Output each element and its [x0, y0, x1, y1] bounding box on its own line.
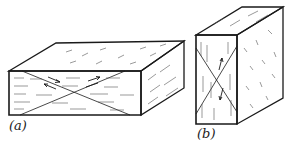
panel-label-b: (b): [197, 126, 215, 141]
block-b: [196, 7, 283, 124]
shear-arrows-a: [44, 77, 100, 90]
figure-diagram: [0, 0, 291, 148]
block-a-top-face: [9, 41, 184, 71]
block-a: [9, 41, 184, 115]
block-b-top-face: [196, 7, 283, 35]
panel-label-a: (a): [9, 118, 27, 133]
block-a-side-face: [141, 41, 184, 115]
grain-hatch-b: [201, 11, 276, 120]
shear-arrows-b: [219, 58, 223, 100]
block-b-side-face: [237, 7, 283, 124]
